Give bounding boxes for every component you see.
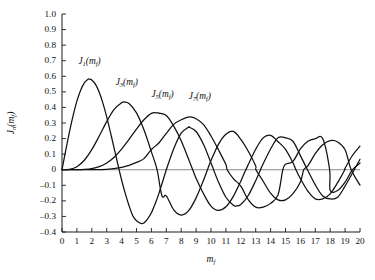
y-tick-label: 0.6 — [45, 71, 57, 81]
y-tick-label: 0.2 — [45, 133, 57, 143]
y-axis-title: Jn(mf) — [5, 112, 17, 135]
x-tick-label: 5 — [134, 236, 139, 246]
x-axis-title: mf — [207, 253, 217, 265]
y-tick-label: –0.3 — [39, 211, 56, 221]
curve-label-j3: J3(mf) — [116, 77, 138, 88]
x-tick-label: 2 — [90, 236, 95, 246]
x-tick-label: 17 — [311, 236, 321, 246]
x-tick-label: 20 — [355, 236, 365, 246]
y-tick-label: 0.4 — [45, 102, 57, 112]
plot-canvas: 1.00.90.80.70.60.50.40.30.20.10–0.1–0.2–… — [0, 0, 375, 280]
y-tick-label: –0.4 — [39, 227, 56, 237]
x-tick-label: 18 — [326, 236, 336, 246]
x-tick-label: 19 — [341, 236, 351, 246]
y-tick-label: 0.8 — [45, 40, 57, 50]
y-axis-ticks — [62, 14, 66, 232]
x-tick-label: 14 — [266, 236, 276, 246]
y-tick-label: 1.0 — [45, 9, 57, 19]
x-tick-label: 6 — [149, 236, 154, 246]
x-tick-label: 8 — [179, 236, 184, 246]
y-tick-label: –0.1 — [39, 180, 56, 190]
x-tick-label: 7 — [164, 236, 169, 246]
curve-label-j1: J1(mf) — [78, 56, 100, 67]
x-tick-label: 3 — [104, 236, 109, 246]
x-tick-label: 9 — [194, 236, 199, 246]
x-tick-label: 4 — [119, 236, 124, 246]
x-tick-label: 0 — [60, 236, 65, 246]
x-tick-label: 10 — [206, 236, 216, 246]
y-axis-title-group: Jn(mf) — [5, 112, 17, 135]
curve-label-group: J1(mf)J3(mf)J5(mf)J7(mf) — [78, 56, 211, 102]
curve-label-j5: J5(mf) — [151, 89, 173, 100]
y-tick-label: 0.5 — [45, 86, 57, 96]
x-tick-label: 15 — [281, 236, 291, 246]
y-tick-label: –0.2 — [39, 195, 56, 205]
x-tick-label: 16 — [296, 236, 306, 246]
x-axis-group: 01234567891011121314151617181920 — [60, 228, 365, 246]
bessel-function-chart: 1.00.90.80.70.60.50.40.30.20.10–0.1–0.2–… — [0, 0, 375, 280]
x-tick-label: 13 — [251, 236, 261, 246]
curve-j1 — [62, 79, 360, 224]
x-tick-label: 12 — [236, 236, 246, 246]
x-tick-label: 1 — [75, 236, 80, 246]
y-tick-label: 0.3 — [45, 118, 57, 128]
y-axis-group: 1.00.90.80.70.60.50.40.30.20.10–0.1–0.2–… — [39, 9, 66, 237]
x-axis-ticks — [62, 228, 360, 232]
x-tick-label: 11 — [221, 236, 230, 246]
curve-group — [62, 79, 360, 224]
curve-label-j7: J7(mf) — [189, 91, 211, 102]
y-tick-label: 0.7 — [45, 55, 57, 65]
y-tick-label: 0 — [51, 164, 56, 174]
y-tick-label: 0.9 — [45, 24, 57, 34]
y-tick-label: 0.1 — [45, 149, 57, 159]
y-axis-tick-labels: 1.00.90.80.70.60.50.40.30.20.10–0.1–0.2–… — [39, 9, 56, 237]
x-axis-tick-labels: 01234567891011121314151617181920 — [60, 236, 365, 246]
